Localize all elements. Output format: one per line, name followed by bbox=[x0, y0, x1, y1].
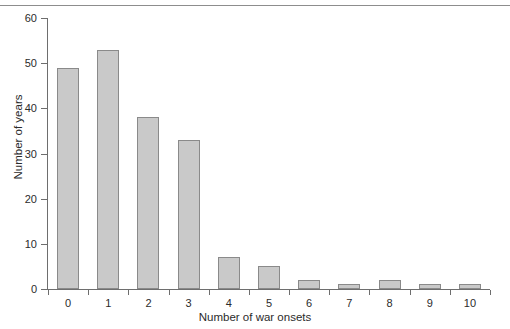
y-tick-mark bbox=[41, 154, 47, 155]
y-tick-mark bbox=[41, 289, 47, 290]
x-tick-mark bbox=[329, 290, 330, 295]
x-tick-mark bbox=[128, 290, 129, 295]
y-tick-label: 60 bbox=[11, 13, 37, 24]
x-tick-mark bbox=[209, 290, 210, 295]
bar bbox=[57, 68, 79, 289]
bar bbox=[178, 140, 200, 289]
bar bbox=[338, 284, 360, 289]
x-tick-mark bbox=[369, 290, 370, 295]
x-tick-mark bbox=[289, 290, 290, 295]
x-tick-mark bbox=[88, 290, 89, 295]
y-tick-mark bbox=[41, 199, 47, 200]
bar bbox=[419, 284, 441, 289]
y-tick-label: 10 bbox=[11, 239, 37, 250]
bar bbox=[97, 50, 119, 289]
x-tick-mark bbox=[249, 290, 250, 295]
x-tick-label: 2 bbox=[128, 298, 168, 309]
bar bbox=[258, 266, 280, 289]
y-tick-mark bbox=[41, 108, 47, 109]
x-axis-title: Number of war onsets bbox=[0, 311, 510, 323]
plot-area bbox=[48, 18, 490, 289]
x-tick-label: 7 bbox=[329, 298, 369, 309]
x-tick-mark bbox=[169, 290, 170, 295]
x-tick-label: 5 bbox=[249, 298, 289, 309]
y-tick-mark bbox=[41, 18, 47, 19]
x-tick-label: 1 bbox=[88, 298, 128, 309]
y-tick-label: 0 bbox=[11, 284, 37, 295]
bar bbox=[137, 117, 159, 289]
y-axis-title: Number of years bbox=[12, 62, 24, 212]
bar bbox=[218, 257, 240, 289]
x-tick-label: 9 bbox=[410, 298, 450, 309]
x-tick-label: 0 bbox=[48, 298, 88, 309]
y-tick-mark bbox=[41, 244, 47, 245]
x-tick-mark bbox=[410, 290, 411, 295]
x-tick-label: 8 bbox=[370, 298, 410, 309]
x-tick-mark bbox=[490, 290, 491, 295]
x-tick-mark bbox=[48, 290, 49, 295]
bar bbox=[459, 284, 481, 289]
bar bbox=[298, 280, 320, 289]
x-tick-mark bbox=[450, 290, 451, 295]
bar-chart-figure: 0102030405060 012345678910 Number of war… bbox=[0, 0, 510, 329]
x-tick-label: 3 bbox=[169, 298, 209, 309]
y-tick-mark bbox=[41, 63, 47, 64]
bar bbox=[379, 280, 401, 289]
x-tick-label: 10 bbox=[450, 298, 490, 309]
x-tick-label: 4 bbox=[209, 298, 249, 309]
x-tick-label: 6 bbox=[289, 298, 329, 309]
